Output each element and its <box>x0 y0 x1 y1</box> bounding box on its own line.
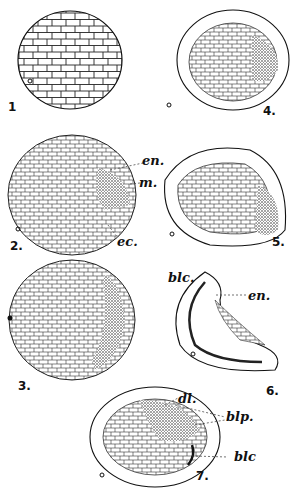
label-endoderm-6: en. <box>248 289 270 302</box>
label-blastocoel-6: blc. <box>168 271 194 284</box>
label-endoderm-2: en. <box>142 154 164 167</box>
panel-1-morula <box>18 11 122 109</box>
panel-6 <box>176 272 278 371</box>
label-ectoderm-2: ec. <box>117 235 138 248</box>
panel-4 <box>167 10 289 110</box>
panel-5 <box>165 148 286 246</box>
label-dorsal-lip-7: dl. <box>178 392 197 405</box>
panel-3 <box>8 260 136 380</box>
panel-number-4: 4. <box>263 105 276 117</box>
panel-number-3: 3. <box>18 380 31 392</box>
label-mesoderm-2: m. <box>139 176 157 189</box>
panel-number-2: 2. <box>10 240 23 252</box>
label-blastocoel-7: blc <box>234 450 256 463</box>
panel-number-5: 5. <box>272 236 285 248</box>
label-blastopore-7: blp. <box>226 410 254 423</box>
panel-number-1: 1 <box>8 101 16 113</box>
panel-number-6: 6. <box>266 385 279 397</box>
panel-number-7: 7. <box>196 470 209 482</box>
